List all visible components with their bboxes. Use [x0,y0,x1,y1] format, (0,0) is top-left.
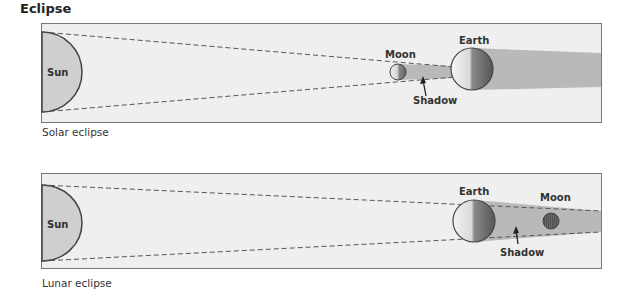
eclipse-diagram: Sun Moon Earth Shadow Sun Earth Moon [0,0,633,300]
earth-label: Earth [459,35,489,46]
sun-label: Sun [47,67,68,78]
lunar-eclipse-panel: Sun Earth Moon Shadow [42,174,602,269]
shadow-label: Shadow [413,95,457,106]
sun-label: Sun [47,219,68,230]
moon [543,213,559,229]
earth-label: Earth [459,186,489,197]
moon-label: Moon [540,192,571,203]
earth [451,48,493,90]
solar-eclipse-panel: Sun Moon Earth Shadow [42,24,602,123]
shadow-label: Shadow [500,247,544,258]
moon-label: Moon [385,49,416,60]
moon [390,64,406,80]
moon-shadow-cone [398,64,455,80]
earth [453,200,495,242]
solar-eclipse-caption: Solar eclipse [42,126,109,138]
lunar-eclipse-caption: Lunar eclipse [42,277,112,289]
